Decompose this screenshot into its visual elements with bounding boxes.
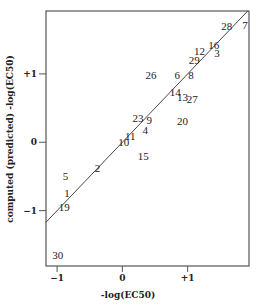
- point-label-2: 2: [95, 162, 101, 174]
- x-tick-label: 0: [119, 273, 125, 283]
- point-label-28: 28: [221, 20, 233, 32]
- point-label-4: 4: [142, 124, 148, 136]
- y-tick-label: −1: [23, 206, 37, 216]
- y-axis-ticks: +10−1: [23, 69, 46, 216]
- point-label-1: 1: [64, 187, 70, 199]
- point-label-10: 10: [118, 136, 130, 148]
- x-axis-ticks: −10+1: [50, 266, 194, 283]
- point-label-8: 8: [188, 69, 194, 81]
- point-label-20: 20: [177, 115, 189, 127]
- x-tick-label: −1: [50, 273, 64, 283]
- point-label-5: 5: [63, 170, 69, 182]
- point-label-7: 7: [242, 19, 248, 31]
- point-label-15: 15: [138, 150, 150, 162]
- point-label-26: 26: [146, 69, 158, 81]
- point-label-6: 6: [174, 69, 180, 81]
- y-tick-label: 0: [31, 137, 37, 147]
- point-label-27: 27: [187, 93, 199, 105]
- y-axis-label: computed (predicted) -log(EC50): [5, 55, 15, 222]
- point-label-19: 19: [59, 201, 71, 213]
- x-tick-label: +1: [181, 273, 195, 283]
- point-label-30: 30: [52, 249, 64, 261]
- point-label-3: 3: [214, 47, 220, 59]
- x-axis-label: -log(EC50): [101, 290, 156, 300]
- point-label-23: 23: [133, 112, 145, 124]
- scatter-chart: 287161232926681413272023941110152511930 …: [0, 0, 256, 305]
- data-points: 287161232926681413272023941110152511930: [52, 19, 248, 261]
- point-label-29: 29: [189, 54, 201, 66]
- y-tick-label: +1: [23, 69, 37, 79]
